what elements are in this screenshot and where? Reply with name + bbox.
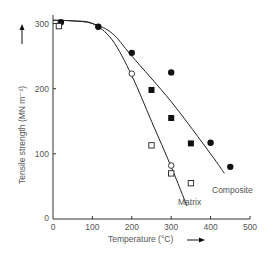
open-square-marker: [56, 23, 61, 28]
filled-square-marker: [188, 140, 194, 146]
x-tick-label: 500: [243, 222, 257, 232]
open-square-marker: [149, 143, 154, 148]
x-tick-label: 400: [204, 222, 218, 232]
filled-square-marker: [168, 115, 174, 121]
matrix-curve-label: Matrix: [178, 197, 202, 207]
y-tick-label: 300: [35, 19, 49, 29]
chart: 01002003004005000100200300 Composite Mat…: [0, 0, 273, 255]
fit-curves: [53, 20, 224, 206]
y-tick-label: 0: [44, 213, 49, 223]
composite-curve-label: Composite: [212, 185, 253, 195]
filled-circle-marker: [227, 164, 233, 170]
axes: 01002003004005000100200300: [20, 15, 258, 243]
y-tick-label: 200: [35, 84, 49, 94]
data-points: [56, 19, 233, 186]
open-circle-marker: [168, 163, 174, 169]
filled-circle-marker: [129, 50, 135, 56]
x-tick-label: 200: [125, 222, 139, 232]
x-tick-label: 0: [51, 222, 56, 232]
y-axis-title: Tensile strength (MN m⁻²): [17, 86, 27, 184]
filled-circle-marker: [95, 24, 101, 30]
filled-circle-marker: [168, 69, 174, 75]
x-axis-title: Temperature (°C): [108, 234, 173, 244]
open-square-marker: [169, 171, 174, 176]
y-tick-label: 100: [35, 149, 49, 159]
matrix-curve: [53, 20, 187, 206]
labels: Composite Matrix Temperature (°C) Tensil…: [17, 86, 253, 244]
composite-curve: [53, 20, 224, 173]
x-axis-arrowhead-icon: [199, 238, 205, 243]
y-axis-arrowhead-icon: [20, 24, 25, 30]
filled-circle-marker: [207, 140, 213, 146]
filled-square-marker: [149, 87, 155, 93]
x-tick-label: 300: [164, 222, 178, 232]
open-square-marker: [188, 180, 193, 185]
x-tick-label: 100: [85, 222, 99, 232]
open-circle-marker: [129, 71, 135, 77]
